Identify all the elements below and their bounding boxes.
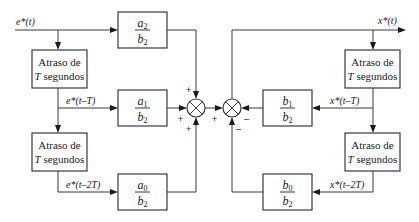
arrow-icon: [370, 125, 376, 133]
delay-label-line2: T segundos: [35, 70, 85, 82]
arrow-icon: [55, 125, 61, 133]
output-delay2-label: x*(t–2T): [329, 179, 365, 191]
sum1-sign-bottom: +: [186, 124, 191, 134]
arrow-icon: [312, 189, 320, 195]
delay-label-line1: Atraso de: [38, 139, 81, 151]
delay-block-left-2: Atraso de T segundos: [32, 133, 87, 171]
arrow-icon: [110, 105, 118, 111]
delay-block-right-2: Atraso de T segundos: [345, 133, 400, 171]
arrow-icon: [370, 42, 376, 50]
gain-block-a2: a2 b2: [118, 12, 167, 48]
delay-label-line2: T segundos: [348, 70, 398, 82]
output-signal-label: x*(t): [377, 15, 398, 27]
summing-junction-2: [223, 99, 241, 117]
delay-block-right-1: Atraso de T segundos: [345, 50, 400, 88]
a2-to-sum-line: [167, 30, 196, 95]
arrow-icon: [193, 91, 199, 99]
sum2-sign-right: –: [244, 114, 249, 124]
arrow-icon: [110, 189, 118, 195]
gain-block-a1: a1 b2: [118, 90, 167, 126]
delay-label-line1: Atraso de: [351, 139, 394, 151]
arrow-icon: [215, 105, 223, 111]
delay-block-left-1: Atraso de T segundos: [32, 50, 87, 88]
sum1-sign-left: +: [178, 114, 183, 124]
input-delay1-label: e*(t–T): [66, 95, 96, 107]
sum2-sign-bottom: –: [236, 124, 241, 134]
summing-junction-1: [187, 99, 205, 117]
arrow-icon: [312, 105, 320, 111]
gain-block-b1: b1 b2: [263, 90, 312, 126]
delay-label-line1: Atraso de: [351, 56, 394, 68]
delay-label-line2: T segundos: [348, 153, 398, 165]
sum1-sign-top: +: [186, 85, 191, 95]
delay-label-line2: T segundos: [35, 153, 85, 165]
arrow-icon: [398, 27, 406, 33]
input-signal-label: e*(t): [16, 16, 36, 28]
arrow-icon: [110, 27, 118, 33]
a0-to-sum-line: [167, 121, 196, 192]
arrow-icon: [193, 117, 199, 125]
arrow-icon: [55, 42, 61, 50]
output-delay1-label: x*(t–T): [329, 95, 360, 107]
sum2-sign-left: +: [212, 114, 217, 124]
gain-block-a0: a0 b2: [118, 174, 167, 210]
delay-label-line1: Atraso de: [38, 56, 81, 68]
arrow-icon: [229, 117, 235, 125]
input-delay2-label: e*(t–2T): [66, 179, 101, 191]
gain-block-b0: b0 b2: [263, 174, 312, 210]
block-diagram: e*(t) Atraso de T segundos e*(t–T) Atras…: [0, 0, 419, 222]
arrow-icon: [241, 105, 249, 111]
arrow-icon: [179, 105, 187, 111]
